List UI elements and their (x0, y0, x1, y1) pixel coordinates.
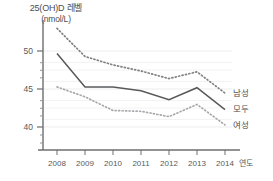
y-axis (37, 20, 43, 150)
x-tick-label-2012: 2012 (160, 159, 178, 168)
y-tick-label-40: 40 (24, 122, 34, 132)
line-chart-plot: 50 45 40 2008 2009 2010 2011 2012 2013 2… (0, 0, 273, 181)
y-tick-label-45: 45 (24, 84, 34, 94)
x-tick-label-2010: 2010 (104, 159, 122, 168)
legend-label-male: 남성 (233, 88, 249, 98)
gridlines (43, 51, 232, 127)
legend: 남성 모두 여성 (233, 88, 249, 130)
x-tick-label-2009: 2009 (76, 159, 94, 168)
y-tick-labels: 50 45 40 (24, 46, 34, 132)
x-tick-labels: 2008 2009 2010 2011 2012 2013 2014 연도 (48, 159, 253, 168)
x-axis-title: 연도 (239, 159, 253, 168)
x-tick-label-2013: 2013 (188, 159, 206, 168)
chart-container: 25(OH)D 레벨 (nmol/L) (0, 0, 273, 181)
x-tick-label-2014: 2014 (216, 159, 234, 168)
legend-label-female: 여성 (233, 120, 249, 130)
x-tick-label-2011: 2011 (132, 159, 150, 168)
x-axis (38, 150, 240, 155)
y-tick-label-50: 50 (24, 46, 34, 56)
x-tick-label-2008: 2008 (48, 159, 66, 168)
legend-label-all: 모두 (233, 104, 249, 114)
